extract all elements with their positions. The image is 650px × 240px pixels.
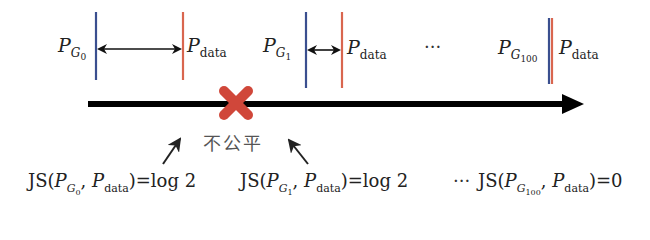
label-p-data-3: Pdata: [559, 36, 599, 58]
label-p-data-1: Pdata: [187, 34, 227, 56]
formula-js-g100: JS(PG100, Pdata)=0: [478, 170, 623, 191]
formula-ellipsis: ···: [453, 170, 470, 191]
label-p-g100: PG100: [498, 36, 538, 58]
label-p-data-2: Pdata: [347, 36, 387, 58]
label-p-g1: PG1: [263, 34, 291, 56]
unfair-label: 不公平: [203, 129, 263, 155]
formula-js-g0: JS(PG0, Pdata)=log 2: [28, 170, 196, 191]
label-p-g0: PG0: [58, 34, 86, 56]
formula-js-g1: JS(PG1, Pdata)=log 2: [240, 170, 408, 191]
ellipsis: ···: [424, 36, 441, 57]
pointer-arrow-right: [289, 140, 308, 164]
pointer-arrow-left: [163, 139, 180, 164]
